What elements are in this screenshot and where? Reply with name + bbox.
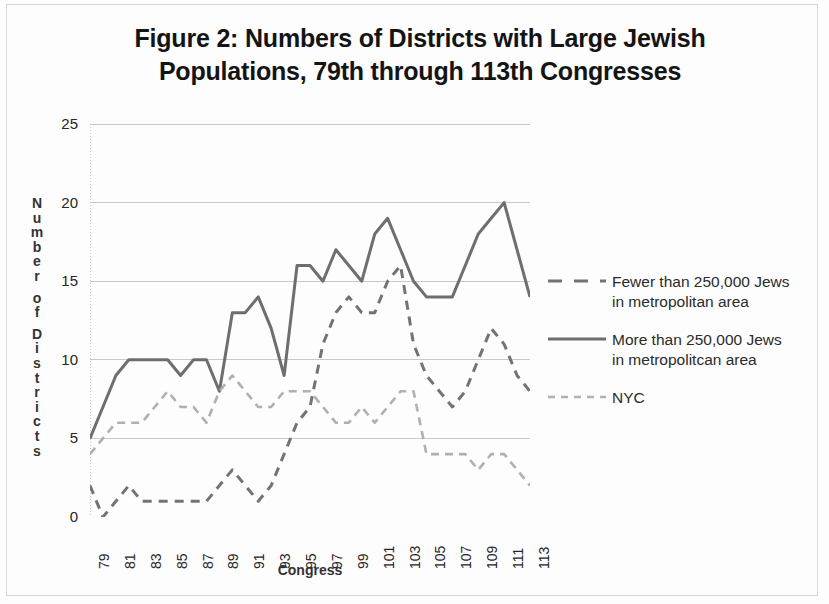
y-axis-title: Number of Districts [26, 196, 48, 458]
y-axis-title-letter: e [26, 254, 48, 269]
y-tick-label: 5 [44, 429, 78, 446]
legend-entry: Fewer than 250,000 Jews in metropolitan … [548, 272, 798, 311]
legend-label: NYC [612, 388, 645, 408]
y-axis-title-letter: D [26, 327, 48, 342]
legend-entry: More than 250,000 Jews in metropolitcan … [548, 330, 798, 369]
x-axis-title: Congress [90, 562, 530, 578]
y-axis-title-letter: m [26, 225, 48, 240]
y-axis-title-letter: t [26, 371, 48, 386]
y-tick-label: 25 [44, 115, 78, 132]
y-axis-title-letter: u [26, 211, 48, 226]
chart-legend: Fewer than 250,000 Jews in metropolitan … [548, 272, 798, 427]
y-axis-title-letter: i [26, 400, 48, 415]
legend-entry: NYC [548, 388, 798, 408]
legend-swatch-dashed-light-icon [548, 388, 606, 404]
chart-title: Figure 2: Numbers of Districts with Larg… [40, 22, 800, 88]
y-tick-label: 15 [44, 272, 78, 289]
x-tick-label: 113 [536, 523, 552, 569]
y-tick-label: 10 [44, 351, 78, 368]
legend-label: Fewer than 250,000 Jews in metropolitan … [612, 272, 798, 311]
y-axis-title-letter: b [26, 240, 48, 255]
legend-swatch-solid-icon [548, 330, 606, 346]
legend-swatch-dashed-icon [548, 272, 606, 288]
figure-container: Figure 2: Numbers of Districts with Larg… [0, 0, 829, 604]
plot-area [90, 124, 530, 517]
y-axis-title-letter: c [26, 414, 48, 429]
y-axis-title-letter: r [26, 385, 48, 400]
chart-svg [90, 124, 530, 517]
y-axis-title-letter: f [26, 305, 48, 320]
y-axis-title-letter: o [26, 291, 48, 306]
y-tick-label: 0 [44, 508, 78, 525]
legend-label: More than 250,000 Jews in metropolitcan … [612, 330, 798, 369]
series-line-2 [90, 376, 530, 486]
y-tick-label: 20 [44, 194, 78, 211]
